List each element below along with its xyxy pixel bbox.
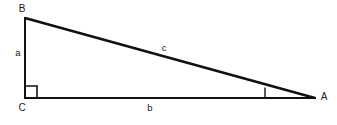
side-label-c: c bbox=[162, 42, 167, 53]
triangle-diagram-canvas: B C A a b c bbox=[0, 0, 337, 125]
vertex-label-b: B bbox=[19, 3, 26, 14]
right-angle-marker-c bbox=[25, 86, 37, 98]
side-label-b: b bbox=[147, 102, 152, 113]
right-triangle-figure: B C A a b c bbox=[0, 0, 337, 125]
side-label-a: a bbox=[15, 47, 21, 58]
side-c-line bbox=[25, 18, 315, 98]
vertex-label-a: A bbox=[321, 91, 328, 102]
vertex-label-c: C bbox=[18, 102, 25, 113]
